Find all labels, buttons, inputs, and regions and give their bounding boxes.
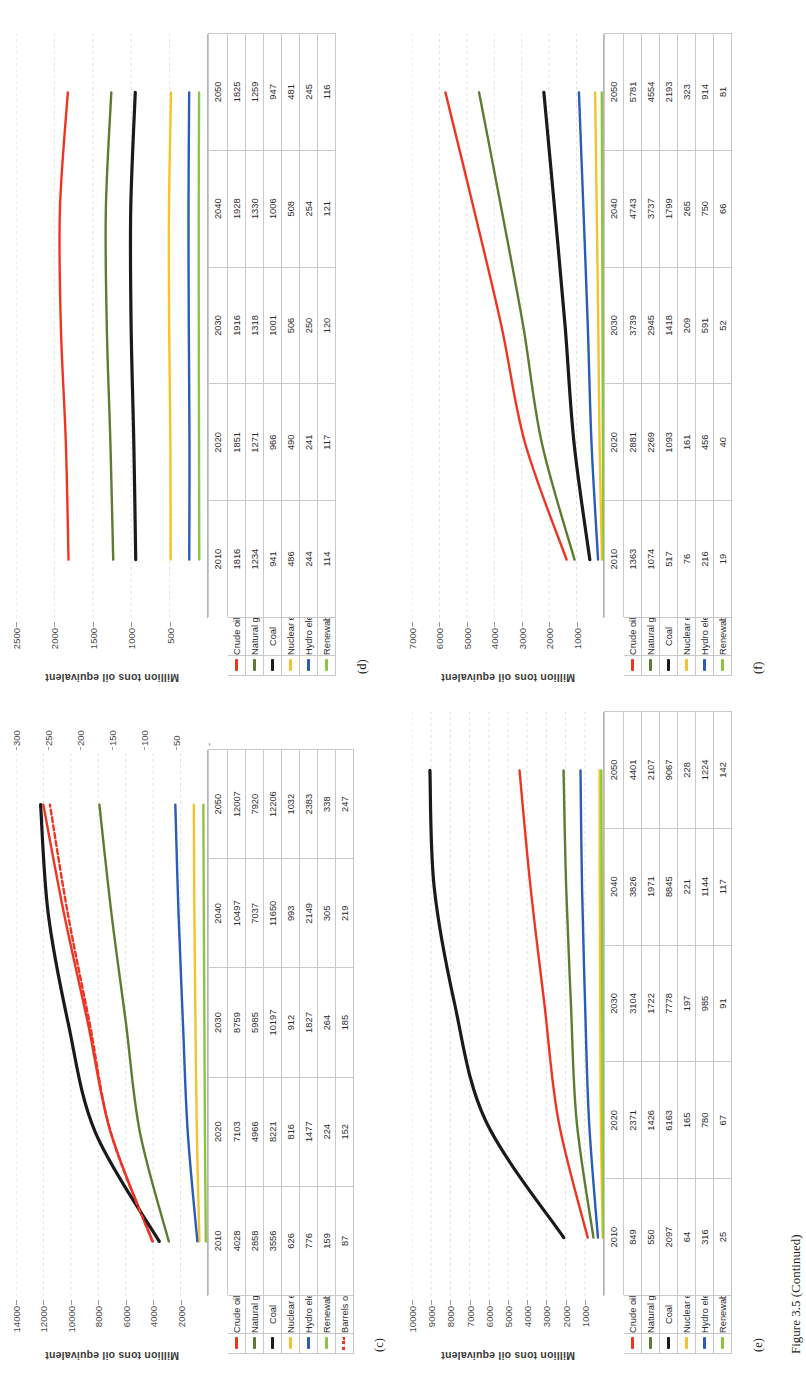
table-cell: 506 [282,267,300,384]
legend-swatch-cell [678,656,696,676]
y-tick-mark [439,622,440,627]
table-year-header: 2010 [605,1179,624,1296]
table-cell: 120 [318,267,336,384]
table-row: Natural gas28584966598570377920 [246,750,264,1354]
y-tick-label: 14000 [11,1306,22,1332]
legend-swatch-cell [282,656,300,676]
legend-swatch-cell [318,656,336,676]
table-cell: 81 [714,34,732,151]
y-tick-label: 1000 [126,628,137,649]
legend-label-natural-gas: Natural gas [642,618,660,656]
table-row: Renewables256791117142 [714,712,732,1354]
y-tick-label: 2000 [175,1306,186,1327]
y-tick-label: 3000 [516,628,527,649]
y-tick-mark [412,1300,413,1305]
table-row: Crude oil4028710387591049712007 [228,750,246,1354]
table-cell: 19 [714,501,732,618]
table-cell: 323 [678,34,696,151]
table-row: Hydro electricity7761477182721492383 [300,750,318,1354]
table-year-header: 2050 [605,34,624,151]
legend-swatch-cell [264,1334,282,1354]
table-cell: 247 [336,750,354,859]
table-row: Renewables1940526681 [714,34,732,676]
legend-swatch-cell [264,656,282,676]
table-cell: 219 [336,859,354,968]
y-tick-mark [527,1300,528,1305]
panel-letter-d: (d) [355,659,370,674]
series-line-renewables [199,92,200,559]
panel-letter-c: (c) [372,1338,387,1352]
table-cell: 947 [264,34,282,151]
y-tick-mark [43,1300,44,1305]
table-cell: 912 [282,968,300,1077]
table-corner-cell [209,618,228,656]
table-year-header: 2020 [209,384,228,501]
y-tick-label: 3000 [541,1306,552,1327]
table-header-row: 20102020203020402050 [209,34,228,676]
table-row: Coal94196610011006947 [264,34,282,676]
table-cell: 1318 [246,267,264,384]
table-cell: 3104 [624,945,642,1062]
table-cell: 265 [678,150,696,267]
table-cell: 2858 [246,1186,264,1295]
table-row: Renewables159224264305338 [318,750,336,1354]
secondary-y-tick-label-zero: - [203,743,214,746]
legend-line-icon-natural-gas [253,660,256,672]
legend-line-icon-nuclear-energy [289,660,292,672]
table-cell: 209 [678,267,696,384]
y-tick-label: 4000 [522,1306,533,1327]
table-year-header: 2050 [209,750,228,859]
y-tick-label: 7000 [464,1306,475,1327]
y-tick-label: 6000 [483,1306,494,1327]
table-cell: 185 [336,968,354,1077]
y-axis-title: Million tons oil equivalent [45,672,179,684]
series-line-hydro-electricity [188,92,189,559]
y-tick-label: 2000 [49,628,60,649]
plot-area-c [16,750,208,1296]
table-cell: 2149 [300,859,318,968]
legend-label-nuclear-energy: Nuclear energy [678,1296,696,1334]
table-year-header: 2030 [209,968,228,1077]
table-row: Nuclear energy64165197221228 [678,712,696,1354]
data-table-d: 20102020203020402050Crude oil18161851191… [208,33,336,676]
table-cell: 816 [282,1077,300,1186]
legend-line-icon-renewables [721,660,724,672]
table-cell: 1722 [642,945,660,1062]
y-tick-mark [181,1300,182,1305]
legend-line-icon-crude-oil [631,660,634,672]
legend-swatch-cell [228,1334,246,1354]
table-year-header: 2050 [605,712,624,829]
y-tick-mark [54,622,55,627]
table-cell: 4966 [246,1077,264,1186]
series-line-coal [544,92,590,559]
table-cell: 508 [282,150,300,267]
table-cell: 6163 [660,1062,678,1179]
y-tick-mark [549,622,550,627]
table-cell: 1144 [696,828,714,945]
table-cell: 456 [696,384,714,501]
legend-swatch-cell [336,1334,354,1354]
legend-line-icon-nuclear-energy [289,1338,292,1350]
table-cell: 142 [714,712,732,829]
table-cell: 2269 [642,384,660,501]
table-cell: 1825 [228,34,246,151]
legend-label-natural-gas: Natural gas [246,618,264,656]
table-cell: 1224 [696,712,714,829]
table-cell: 8759 [228,968,246,1077]
table-row: Natural gas10742269294537374554 [642,34,660,676]
table-year-header: 2010 [209,1186,228,1295]
figure-stage: Million tons oil equivalent2000400060008… [0,0,806,1376]
y-tick-label: 4000 [489,628,500,649]
table-year-header: 2030 [605,267,624,384]
series-line-crude-oil [520,770,588,1237]
legend-line-icon-renewables [325,1338,328,1350]
legend-swatch-cell [300,1334,318,1354]
table-cell: 626 [282,1186,300,1295]
table-row: Coal20976163777888459067 [660,712,678,1354]
y-tick-mark [126,1300,127,1305]
legend-line-icon-hydro-electricity [307,1338,310,1350]
plot-area-f [412,34,604,618]
legend-label-coal: Coal [660,1296,678,1334]
table-cell: 116 [318,34,336,151]
table-cell: 1971 [642,828,660,945]
